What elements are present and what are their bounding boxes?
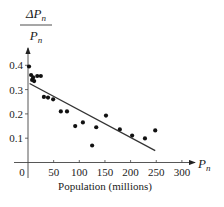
data-point — [73, 124, 77, 128]
x-tick-label: 100 — [71, 166, 88, 178]
y-tick-label: 0.2 — [9, 108, 23, 120]
x-tick-label: 200 — [122, 166, 139, 178]
data-point — [81, 120, 85, 124]
data-point — [143, 136, 147, 140]
x-tick-label: 300 — [174, 166, 191, 178]
data-point — [27, 64, 31, 68]
data-point — [35, 74, 39, 78]
data-point — [104, 114, 108, 118]
data-point — [42, 95, 46, 99]
y-label-numerator: ΔPn — [25, 6, 47, 23]
y-tick-label: 0.1 — [9, 132, 23, 144]
x-axis-label: Population (millions) — [58, 180, 152, 193]
data-point — [51, 97, 55, 101]
y-tick-label: 0.4 — [9, 59, 23, 71]
x-tick-label: 50 — [48, 166, 60, 178]
data-point — [32, 79, 36, 83]
y-tick-label: 0.3 — [9, 84, 23, 96]
x-axis-end-label: Pn — [197, 156, 211, 173]
chart: 0501001502002503000.10.20.30.4 ΔPn Pn Pn… — [0, 0, 224, 207]
data-point — [39, 74, 43, 78]
data-point — [59, 109, 63, 113]
x-tick-label: 150 — [97, 166, 114, 178]
axes — [14, 48, 195, 178]
y-axis-label: ΔPn Pn — [20, 6, 52, 45]
x-tick-label: 0 — [19, 166, 25, 178]
data-point — [31, 75, 35, 79]
x-tick-label: 250 — [148, 166, 165, 178]
data-point — [90, 143, 94, 147]
data-point — [46, 96, 50, 100]
fit-line — [30, 84, 156, 151]
data-point — [94, 125, 98, 129]
marks — [27, 64, 157, 150]
y-label-denominator: Pn — [29, 28, 43, 45]
data-point — [65, 109, 69, 113]
data-point — [153, 128, 157, 132]
